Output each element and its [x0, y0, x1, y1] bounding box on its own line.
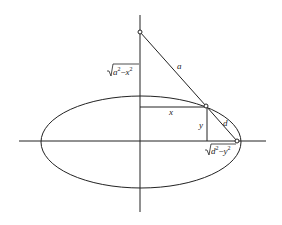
svg-text:d2−y2: d2−y2: [211, 145, 231, 156]
label-x: x: [168, 107, 173, 117]
svg-text:a2−x2: a2−x2: [113, 66, 133, 77]
point-top: [138, 30, 142, 34]
label-d: d: [223, 118, 228, 128]
segment-a: [140, 32, 206, 106]
label-a: a: [177, 61, 182, 71]
label-y: y: [198, 120, 203, 130]
point-on-axis: [235, 139, 239, 143]
label-sqrt-a2-x2: a2−x2: [107, 64, 139, 77]
point-on-ellipse: [204, 104, 208, 108]
ellipse: [41, 96, 241, 188]
ellipse-diagram: a x y d a2−x2 d2−y2: [0, 0, 282, 225]
label-sqrt-d2-y2: d2−y2: [205, 144, 236, 156]
